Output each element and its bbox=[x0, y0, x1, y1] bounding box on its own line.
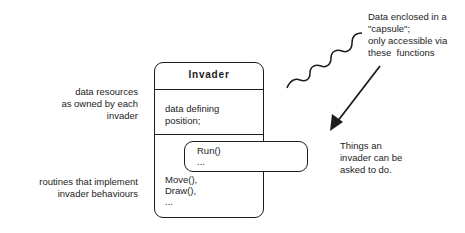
diagram-canvas: data resources as owned by each invader … bbox=[0, 0, 465, 233]
things-note: Things an invader can be asked to do. bbox=[340, 140, 402, 176]
capsule-note: Data enclosed in a "capsule"; only acces… bbox=[368, 11, 447, 59]
arrow-line bbox=[337, 66, 380, 122]
wavy-line-icon bbox=[287, 33, 362, 88]
